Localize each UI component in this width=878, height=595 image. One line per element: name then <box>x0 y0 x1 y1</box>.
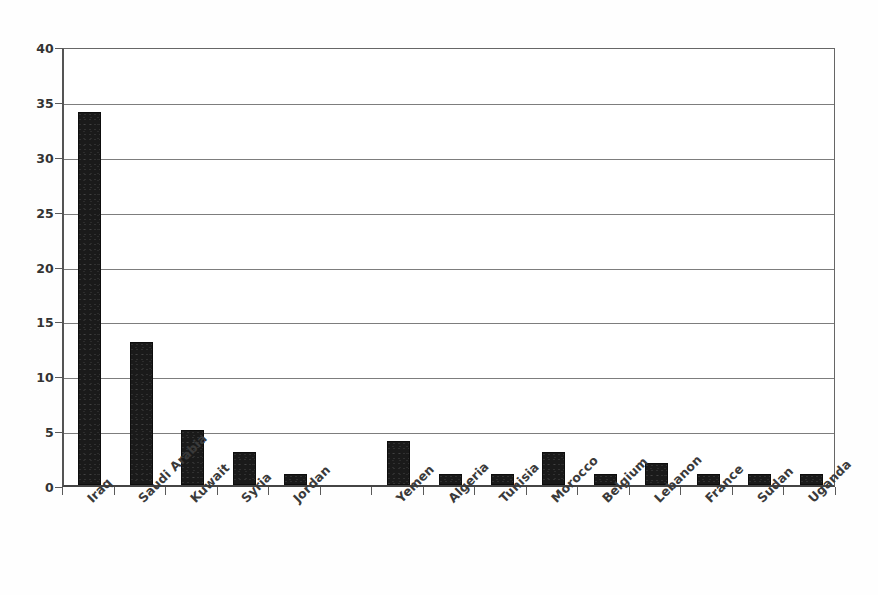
gridline-25 <box>64 214 834 215</box>
gridline-30 <box>64 159 834 160</box>
y-tick-mark-35 <box>55 103 62 104</box>
y-tick-mark-15 <box>55 322 62 323</box>
x-tick-mark-6 <box>371 487 372 495</box>
x-tick-mark-12 <box>680 487 681 495</box>
x-tick-mark-1 <box>114 487 115 495</box>
plot-area <box>62 48 835 487</box>
x-tick-mark-13 <box>732 487 733 495</box>
gridline-10 <box>64 378 834 379</box>
x-tick-mark-15 <box>835 487 836 495</box>
gridline-35 <box>64 104 834 105</box>
y-tick-mark-5 <box>55 432 62 433</box>
y-tick-label-15: 15 <box>10 315 54 330</box>
gridline-20 <box>64 269 834 270</box>
x-tick-mark-10 <box>577 487 578 495</box>
x-tick-mark-4 <box>268 487 269 495</box>
x-tick-mark-3 <box>217 487 218 495</box>
y-tick-mark-30 <box>55 158 62 159</box>
x-tick-mark-11 <box>629 487 630 495</box>
y-tick-mark-25 <box>55 213 62 214</box>
y-tick-label-30: 30 <box>10 150 54 165</box>
y-tick-mark-20 <box>55 268 62 269</box>
y-tick-label-25: 25 <box>10 205 54 220</box>
y-tick-label-20: 20 <box>10 260 54 275</box>
x-tick-mark-9 <box>526 487 527 495</box>
x-tick-mark-8 <box>474 487 475 495</box>
y-tick-mark-0 <box>55 487 62 488</box>
x-tick-mark-7 <box>423 487 424 495</box>
y-tick-label-0: 0 <box>10 480 54 495</box>
gridline-5 <box>64 433 834 434</box>
x-tick-mark-14 <box>783 487 784 495</box>
bar-saudi-arabia <box>130 342 153 485</box>
bar-yemen <box>387 441 410 485</box>
x-tick-mark-0 <box>62 487 63 495</box>
y-tick-mark-40 <box>55 48 62 49</box>
y-tick-label-35: 35 <box>10 95 54 110</box>
bar-iraq <box>78 112 101 485</box>
x-tick-mark-5 <box>320 487 321 495</box>
bar-chart: 0510152025303540 IraqSaudi ArabiaKuwaitS… <box>0 0 878 595</box>
gridline-15 <box>64 323 834 324</box>
y-tick-label-5: 5 <box>10 425 54 440</box>
y-tick-mark-10 <box>55 377 62 378</box>
x-tick-mark-2 <box>165 487 166 495</box>
y-tick-label-10: 10 <box>10 370 54 385</box>
y-tick-label-40: 40 <box>10 41 54 56</box>
